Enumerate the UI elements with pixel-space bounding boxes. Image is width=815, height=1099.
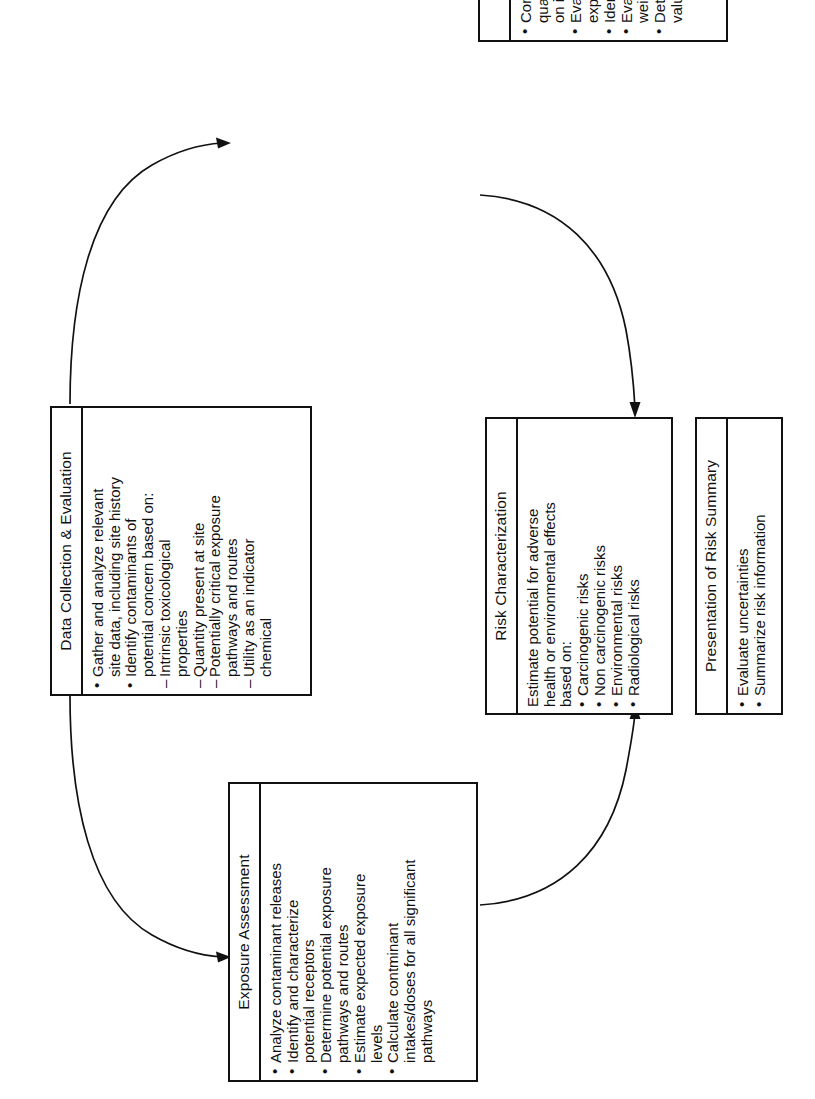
list-item: Non carcinogenic risks [592, 427, 609, 707]
list-item: Gather and analyze relevant site data, i… [90, 416, 124, 688]
node-body-data-collection-evaluation: Gather and analyze relevant site data, i… [83, 408, 310, 694]
list-item: Potentially critical exposure pathways a… [207, 416, 241, 688]
list-item: Summarize risk information [752, 427, 769, 707]
list-item: Determine potential exposure pathways an… [318, 792, 352, 1074]
node-title-data-collection-evaluation: Data Collection & Evaluation [52, 408, 83, 694]
list-item: Estimate expected exposure levels [352, 792, 386, 1074]
node-body-exposure-assessment: Analyze contaminant releases Identify an… [261, 784, 476, 1080]
list-item: Determine all relevant toxicity values f… [652, 0, 686, 34]
node-list-risk-characterization: Estimate potential for adverse health or… [525, 427, 643, 707]
node-body-toxicity-assessment: Compile qualitative and quantitative tox… [511, 0, 726, 40]
node-title-presentation-of-risk-summary: Presentation of Risk Summary [697, 419, 728, 713]
node-title-risk-characterization: Risk Characterization [487, 419, 518, 713]
diagram-canvas: Toxicity Assessment Compile qualitative … [0, 0, 815, 1099]
node-data-collection-evaluation[interactable]: Data Collection & Evaluation Gather and … [50, 406, 312, 696]
list-item: Carcinogenic risks [575, 427, 592, 707]
list-item: Compile qualitative and quantitative tox… [518, 0, 568, 34]
connector-exposure-to-risk [480, 713, 635, 905]
list-item: Calculate contminant intakes/doses for a… [385, 792, 435, 1074]
node-presentation-of-risk-summary[interactable]: Presentation of Risk Summary Evaluate un… [695, 417, 783, 715]
node-list-exposure-assessment: Analyze contaminant releases Identify an… [268, 792, 436, 1074]
node-body-risk-characterization: Estimate potential for adverse health or… [518, 419, 671, 713]
list-item: Intrinsic toxicological properties [157, 416, 191, 688]
connector-toxicity-to-risk [480, 195, 635, 408]
node-body-presentation-of-risk-summary: Evaluate uncertainties Summarize risk in… [728, 419, 781, 713]
node-list-toxicity-assessment: Compile qualitative and quantitative tox… [518, 0, 686, 34]
list-item: Identify and characterize potential rece… [285, 792, 319, 1074]
node-toxicity-assessment[interactable]: Toxicity Assessment Compile qualitative … [478, 0, 728, 42]
list-item: Estimate potential for adverse health or… [525, 427, 575, 707]
list-item: Analyze contaminant releases [268, 792, 285, 1074]
list-item: Quantity present at site [191, 416, 208, 688]
arrowhead-toxicity [216, 138, 231, 149]
list-item: Identify contaminants of potential conce… [123, 416, 157, 688]
node-title-toxicity-assessment: Toxicity Assessment [480, 0, 511, 40]
list-item: Evaluate uncertainties [735, 427, 752, 707]
connector-data-to-toxicity [70, 143, 222, 404]
list-item: Radiological risks [626, 427, 643, 707]
node-title-exposure-assessment: Exposure Assessment [230, 784, 261, 1080]
node-exposure-assessment[interactable]: Exposure Assessment Analyze contaminant … [228, 782, 478, 1082]
connector-data-to-exposure [70, 696, 222, 957]
list-item: Utility as an indicator chemical [241, 416, 275, 688]
arrowhead-risk-top [630, 402, 641, 418]
list-item: Evalute toxicological weight-of-evidence [619, 0, 653, 34]
list-item: Environmental risks [609, 427, 626, 707]
list-item: Evalute adverse effects of exposure [568, 0, 602, 34]
node-risk-characterization[interactable]: Risk Characterization Estimate potential… [485, 417, 673, 715]
node-list-presentation-of-risk-summary: Evaluate uncertainties Summarize risk in… [735, 427, 769, 707]
node-list-data-collection-evaluation: Gather and analyze relevant site data, i… [90, 416, 275, 688]
